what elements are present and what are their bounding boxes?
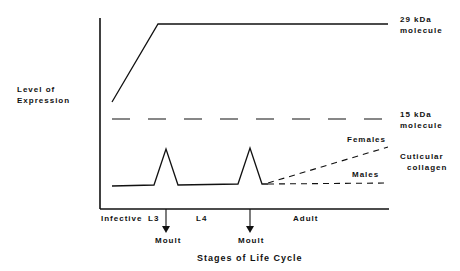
label-29kda-1: 29 kDa <box>400 14 432 25</box>
stage-l4: L4 <box>196 213 207 224</box>
series-collagen <box>112 148 268 186</box>
arrowhead-icon <box>162 226 170 233</box>
x-axis-label: Stages of Life Cycle <box>197 253 303 264</box>
series-collagen-males <box>268 183 388 184</box>
label-collagen-2: collagen <box>407 162 447 173</box>
y-axis-label-line2: Expression <box>17 95 70 106</box>
label-15kda-2: molecule <box>400 120 443 131</box>
moult-label-2: Moult <box>238 235 264 246</box>
moult-label-1: Moult <box>155 235 181 246</box>
label-males: Males <box>352 169 379 180</box>
label-29kda-2: molecule <box>400 25 443 36</box>
label-females: Females <box>347 134 386 145</box>
stage-adult: Adult <box>293 213 318 224</box>
stage-infective: Infective <box>101 213 142 224</box>
expression-diagram <box>0 0 460 271</box>
arrowhead-icon <box>246 226 254 233</box>
label-15kda-1: 15 kDa <box>400 109 432 120</box>
series-29kda <box>112 24 388 102</box>
label-collagen-1: Cuticular <box>400 151 444 162</box>
y-axis-label-line1: Level of <box>17 84 55 95</box>
stage-l3: L3 <box>148 213 159 224</box>
